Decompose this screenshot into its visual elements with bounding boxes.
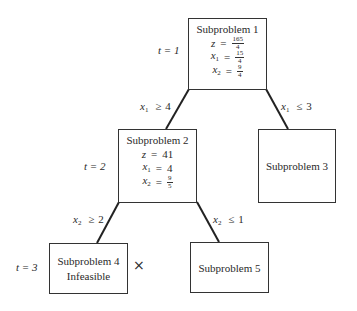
node-subproblem-2: Subproblem 2 z = 41 x1 = 4 x2 = 9 5 bbox=[118, 129, 197, 203]
step-label-t1: t = 1 bbox=[158, 44, 179, 56]
pruned-x-icon: × bbox=[133, 257, 145, 273]
x1-row: x1 = 15 4 bbox=[189, 50, 266, 64]
x2-row: x2 = 9 5 bbox=[119, 175, 196, 189]
node-subproblem-3: Subproblem 3 bbox=[258, 129, 336, 203]
edge-label-x2-ge-2: x2 ≥2 bbox=[73, 213, 104, 227]
node-title: Subproblem 2 bbox=[119, 134, 196, 147]
x2-fraction: 9 5 bbox=[167, 175, 173, 190]
node-title: Subproblem 3 bbox=[259, 160, 335, 173]
z-row: z = 41 bbox=[119, 147, 196, 161]
edge-label-x1-ge-4: x1 ≥4 bbox=[140, 100, 171, 114]
z-row: z = 165 4 bbox=[189, 36, 266, 50]
node-status: Infeasible bbox=[50, 270, 127, 283]
x2-row: x2 = 9 4 bbox=[189, 64, 266, 78]
x2-fraction: 9 4 bbox=[237, 64, 243, 79]
node-title: Subproblem 5 bbox=[191, 261, 268, 274]
node-subproblem-4: Subproblem 4 Infeasible bbox=[49, 243, 128, 294]
step-label-t2: t = 2 bbox=[84, 160, 105, 172]
node-subproblem-1: Subproblem 1 z = 165 4 x1 = 15 4 x2 = 9 … bbox=[188, 18, 267, 90]
node-subproblem-5: Subproblem 5 bbox=[190, 242, 269, 293]
step-label-t3: t = 3 bbox=[16, 261, 37, 273]
node-title: Subproblem 1 bbox=[189, 23, 266, 36]
edge-label-x1-le-3: x1 ≤3 bbox=[281, 100, 312, 114]
edge-label-x2-le-1: x2 ≤1 bbox=[213, 213, 244, 227]
node-title: Subproblem 4 bbox=[50, 255, 127, 268]
x1-row: x1 = 4 bbox=[119, 161, 196, 175]
